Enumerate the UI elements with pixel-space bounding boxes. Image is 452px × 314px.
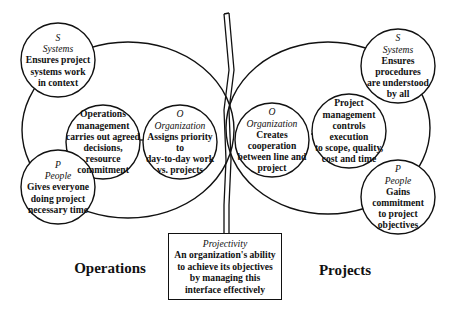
projects-organization-node: O Organization Creates cooperation betwe…	[235, 103, 309, 177]
operations-people-text: necessary time	[28, 204, 88, 215]
projects-title: Projects	[300, 262, 390, 279]
operations-title: Operations	[55, 260, 165, 277]
projectivity-title: Projectivity	[203, 238, 247, 249]
operations-management-text: Operations	[80, 108, 126, 119]
projects-systems-letter: S	[396, 32, 401, 43]
projects-systems-text: are understood	[367, 77, 429, 88]
projects-people-node: P People Gains commitment to project obj…	[361, 160, 435, 234]
projects-people-letter: P	[395, 163, 401, 174]
projects-management-text: controls execution	[312, 120, 386, 142]
operations-people-node: P People Gives everyone doing project ne…	[21, 150, 95, 224]
projects-organization-letter: O	[269, 106, 276, 117]
projects-people-text: objectives	[378, 219, 419, 230]
projects-organization-text: between line and	[238, 151, 307, 162]
operations-people-letter: P	[55, 159, 61, 170]
operations-systems-letter: S	[56, 32, 61, 43]
operations-systems-text: Ensures project	[26, 54, 90, 65]
projects-organization-text: project	[257, 162, 286, 173]
projects-organization-text: cooperation	[248, 140, 297, 151]
projects-organization-text: Creates	[256, 129, 287, 140]
projects-systems-text: by all	[387, 88, 410, 99]
projects-systems-text: Ensures procedures	[361, 55, 435, 77]
projects-management-text: Project	[334, 97, 364, 108]
projectivity-box: Projectivity An organization's ability t…	[168, 233, 282, 300]
projectivity-text: by managing this	[190, 272, 260, 283]
operations-organization-text: day-to-day work	[146, 153, 214, 164]
projects-people-text: commitment	[372, 197, 424, 208]
operations-organization-text: Assigns priority to	[143, 131, 217, 153]
projects-organization-name: Organization	[247, 118, 298, 129]
operations-systems-text: systems work	[30, 66, 85, 77]
operations-organization-text: vs. projects	[157, 164, 203, 175]
operations-organization-name: Organization	[155, 120, 206, 131]
operations-people-text: Gives everyone	[27, 181, 89, 192]
operations-organization-letter: O	[177, 108, 184, 119]
operations-people-name: People	[45, 170, 72, 181]
projectivity-text: interface effectively	[185, 284, 265, 295]
projects-management-text: to scope, quality,	[315, 142, 383, 153]
projectivity-text: to achieve its objectives	[177, 261, 273, 272]
projects-systems-name: Systems	[383, 44, 413, 55]
projects-management-text: management	[323, 109, 376, 120]
operations-management-text: management	[77, 120, 130, 131]
operations-systems-node: S Systems Ensures project systems work i…	[21, 23, 95, 97]
projects-people-text: to project	[378, 208, 418, 219]
operations-organization-node: O Organization Assigns priority to day-t…	[143, 105, 217, 179]
operations-people-text: doing project	[31, 193, 85, 204]
operations-management-text: carries out agreed	[66, 131, 140, 142]
projects-people-name: People	[385, 175, 412, 186]
projectivity-text: An organization's ability	[174, 249, 275, 260]
projects-people-text: Gains	[386, 186, 410, 197]
operations-systems-text: in context	[38, 77, 78, 88]
projects-systems-node: S Systems Ensures procedures are underst…	[361, 29, 435, 103]
operations-systems-name: Systems	[43, 43, 73, 54]
projects-management-node: Project management controls execution to…	[312, 94, 386, 168]
